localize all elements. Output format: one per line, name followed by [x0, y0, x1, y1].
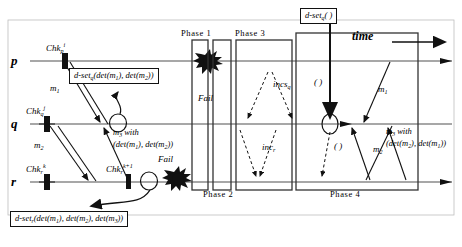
- dset-text: d-set: [15, 213, 32, 223]
- dset-args: (det(m: [93, 70, 115, 80]
- annotation-box-dset-q-top: d-setq( ): [300, 8, 337, 24]
- det-open: (det(m: [113, 139, 135, 149]
- phase-label-2: Phase 2: [203, 190, 233, 199]
- det-close: )): [440, 138, 446, 148]
- incs-sub: q: [288, 84, 291, 90]
- message-label-m1: m1: [50, 84, 60, 94]
- with-word: with: [395, 126, 412, 136]
- phase-label-4: Phase 4: [330, 190, 360, 199]
- dset-text: d-set: [74, 70, 91, 80]
- process-label-p: p: [11, 54, 18, 67]
- phase-4-rect: [296, 33, 418, 190]
- chk-text: Chk: [26, 106, 41, 116]
- chk-sup: i: [64, 42, 66, 48]
- fail-star-r: [162, 166, 192, 191]
- s6: )): [118, 213, 124, 223]
- dset-close: )): [148, 70, 154, 80]
- message-arrow-right-m3-up: [352, 128, 370, 180]
- with-line-1: m3 with: [386, 126, 446, 138]
- checkpoint-label-p-i: Chkpi: [46, 42, 65, 54]
- chk-sub: q: [41, 111, 44, 117]
- dset-args-static: (det(m: [34, 213, 56, 223]
- checkpoint-label-r-k: Chkrk: [26, 163, 46, 175]
- chk-text: Chk: [106, 164, 121, 174]
- inc-sub: r: [273, 147, 275, 153]
- callout-curve-upper: [116, 92, 121, 114]
- message-label-m1-right: m1: [378, 85, 388, 95]
- det-mid: ), det(m: [138, 139, 164, 149]
- with-label-m3-right: m3 with (det(m2), det(m1)): [386, 126, 446, 150]
- rollback-ellipse-r: [141, 172, 158, 190]
- label-empty-paren-upper: ( ): [314, 78, 322, 87]
- with-line-1: m3 with: [113, 127, 173, 139]
- phase-3-rect: [236, 40, 292, 190]
- fail-label-p: Fail: [198, 94, 213, 103]
- label-empty-paren-lower: ( ): [334, 142, 342, 151]
- dset-mid: ), det(m: [119, 70, 145, 80]
- dset-text: d-set: [305, 10, 322, 20]
- chk-text: Chk: [26, 164, 41, 174]
- chk-sub: r: [41, 169, 43, 175]
- chk-sup: j: [44, 105, 46, 111]
- dashed-arrow-1: [248, 72, 268, 118]
- dashed-arrow-4: [260, 130, 276, 176]
- with-label-m3-left: m3 with (det(m1), det(m2)): [113, 127, 173, 151]
- time-label: time: [352, 30, 373, 42]
- phase-label-3: Phase 3: [235, 29, 265, 38]
- chk-sub: r: [121, 169, 123, 175]
- checkpoint-label-q-j: Chkqj: [26, 105, 45, 117]
- s4: ), det(m: [88, 213, 114, 223]
- dset-paren: ( ): [324, 10, 332, 20]
- label-incs-q: incsq: [273, 80, 291, 90]
- dashed-arrow-5: [322, 132, 330, 176]
- annotation-box-dset-r-bottom: d-setr(det(m1), det(m2), det(m3)): [10, 211, 128, 227]
- dashed-arrow-3: [240, 130, 256, 176]
- incs-text: incs: [273, 79, 288, 89]
- det-close: )): [167, 139, 173, 149]
- message-label-m2: m2: [34, 141, 44, 151]
- callout-curve-lower: [92, 190, 150, 206]
- with-line-2: (det(m1), det(m2)): [113, 139, 173, 151]
- det-open: (det(m: [386, 138, 408, 148]
- process-label-r: r: [11, 175, 16, 188]
- diagram-vector-layer: [0, 0, 462, 247]
- process-label-q: q: [11, 117, 18, 130]
- with-line-2: (det(m2), det(m1)): [386, 138, 446, 150]
- chk-sub: p: [61, 48, 64, 54]
- phase-label-1: Phase 1: [181, 29, 211, 38]
- message-arrow-m2: [50, 126, 88, 180]
- diagram-canvas: p q r Chkpi Chkqj Chkrk Chkrk+1 m1 m2 m1…: [0, 0, 462, 247]
- msg-sub: 2: [380, 149, 383, 155]
- checkpoint-mark-r-k: [39, 174, 55, 190]
- fail-label-r: Fail: [158, 155, 173, 164]
- message-label-m2-right: m2: [373, 145, 383, 155]
- msg-sub: 2: [41, 145, 44, 151]
- with-word: with: [122, 127, 139, 137]
- chk-text: Chk: [46, 43, 61, 53]
- msg-sub: 1: [57, 88, 60, 94]
- chk-sup: k+1: [123, 163, 133, 169]
- msg-sub: 1: [385, 89, 388, 95]
- checkpoint-label-r-k1: Chkrk+1: [106, 163, 133, 175]
- annotation-box-dset-q-left: d-setq(det(m1), det(m2)): [69, 68, 159, 84]
- det-mid: ), det(m: [411, 138, 437, 148]
- inc-text: inc: [262, 142, 273, 152]
- label-inc-r: incr: [262, 143, 275, 153]
- timeline-arrowheads: [340, 58, 452, 185]
- message-arrow-m2-b: [58, 126, 96, 181]
- s2: ), det(m: [59, 213, 85, 223]
- chk-sup: k: [43, 163, 46, 169]
